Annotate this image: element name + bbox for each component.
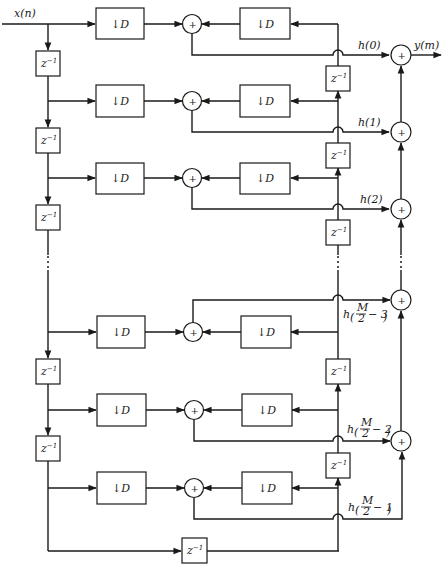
svg-text:↓D: ↓D — [112, 404, 130, 417]
svg-text:+: + — [398, 436, 406, 447]
svg-text:(: ( — [355, 504, 360, 517]
svg-text:): ) — [382, 311, 387, 324]
svg-text:+: + — [189, 19, 197, 30]
svg-text:+: + — [398, 50, 406, 61]
svg-text:↓D: ↓D — [111, 95, 129, 108]
output-ellipsis — [400, 256, 402, 268]
svg-text:↓D: ↓D — [256, 172, 274, 185]
svg-text:): ) — [385, 426, 390, 439]
left-delay-chain — [47, 24, 49, 551]
right-delay-3: z−1 — [326, 220, 350, 245]
svg-text:2: 2 — [357, 312, 365, 325]
svg-text:+: + — [191, 483, 199, 494]
branch-h0: ↓D + ↓D h(0) — [96, 8, 389, 55]
output-adder-chain: + + + + + y(m) — [391, 39, 441, 451]
input-signal: x(n) — [2, 7, 95, 24]
right-delay-4: z−1 — [326, 359, 350, 384]
svg-text:+: + — [190, 327, 198, 338]
left-delay-2: z−1 — [36, 128, 60, 153]
svg-text:+: + — [398, 127, 406, 138]
input-label: x(n) — [14, 7, 36, 20]
left-ellipsis — [47, 256, 49, 268]
svg-text:↓D: ↓D — [111, 18, 129, 31]
output-label: y(m) — [413, 39, 439, 52]
svg-text:(: ( — [354, 426, 359, 439]
block-diagram: x(n) z−1 z−1 z−1 z−1 z−1 z−1 — [0, 0, 445, 568]
coefficient-label-hM2-2: h ( M 2 − 2 ) — [347, 416, 392, 440]
svg-text:): ) — [386, 504, 391, 517]
svg-text:↓D: ↓D — [111, 172, 129, 185]
right-delay-1: z−1 — [326, 66, 350, 91]
svg-text:h(1): h(1) — [358, 116, 381, 129]
left-delay-1: z−1 — [36, 51, 60, 76]
svg-text:+: + — [189, 96, 197, 107]
svg-text:↓D: ↓D — [112, 482, 130, 495]
svg-text:h(0): h(0) — [358, 39, 381, 52]
svg-text:+: + — [191, 405, 199, 416]
svg-text:↓D: ↓D — [112, 326, 130, 339]
right-delay-5: z−1 — [326, 453, 350, 478]
left-delay-3: z−1 — [36, 205, 60, 230]
svg-text:(: ( — [350, 311, 355, 324]
left-delay-5: z−1 — [36, 436, 60, 461]
svg-text:+: + — [398, 295, 406, 306]
coefficient-label-hM2-1: h ( M 2 − 1 ) — [348, 494, 393, 518]
coefficient-label-hM2-3: h ( M 2 − 3 ) — [343, 301, 388, 325]
bottom-delay: z−1 — [48, 538, 339, 563]
branch-hM2-2: ↓D + ↓D h ( M 2 − 2 ) — [48, 394, 392, 441]
svg-text:h(2): h(2) — [360, 193, 383, 206]
branch-hM2-3: ↓D + ↓D h ( M 2 − 3 ) — [48, 295, 390, 348]
svg-text:↓D: ↓D — [258, 404, 276, 417]
svg-text:+: + — [189, 173, 197, 184]
svg-text:↓D: ↓D — [256, 95, 274, 108]
svg-text:↓D: ↓D — [257, 326, 275, 339]
svg-text:↓D: ↓D — [256, 18, 274, 31]
svg-text:↓D: ↓D — [258, 482, 276, 495]
right-ellipsis — [337, 256, 339, 268]
right-delay-2: z−1 — [326, 143, 350, 168]
left-delay-4: z−1 — [36, 359, 60, 384]
svg-text:+: + — [398, 204, 406, 215]
svg-text:2: 2 — [362, 505, 370, 518]
svg-text:2: 2 — [361, 427, 369, 440]
